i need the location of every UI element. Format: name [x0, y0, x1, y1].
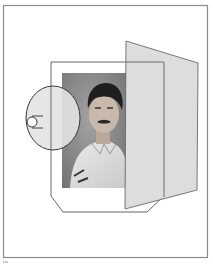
- translucent-picture-plane: [125, 41, 198, 209]
- diagram-figure: [0, 0, 213, 264]
